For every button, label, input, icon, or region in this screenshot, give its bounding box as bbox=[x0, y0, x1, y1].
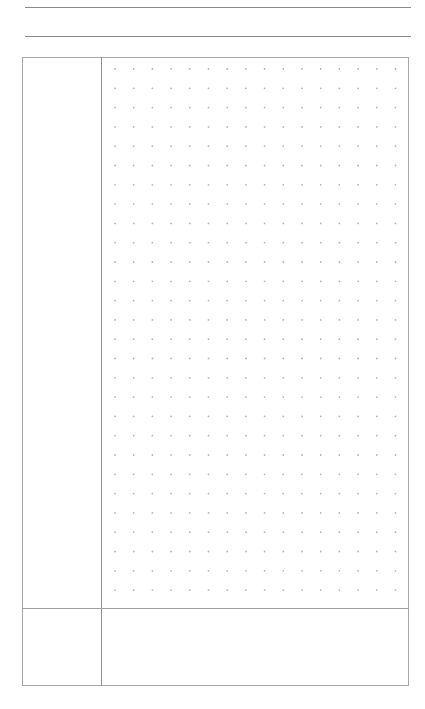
notes-area[interactable] bbox=[102, 609, 408, 685]
notes-sidebar[interactable] bbox=[23, 609, 101, 685]
dot-grid bbox=[0, 0, 425, 709]
